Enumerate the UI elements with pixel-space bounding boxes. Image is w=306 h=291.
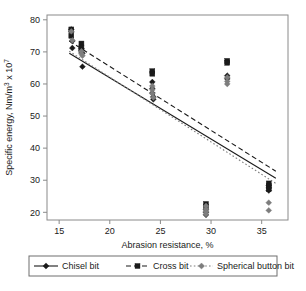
y-tick-label: 20 <box>30 208 40 218</box>
x-tick-label: 20 <box>105 226 115 236</box>
x-tick-label: 25 <box>155 226 165 236</box>
scatter-chart: 1520253035 20304050607080 Abrasion resis… <box>0 0 306 291</box>
y-tick-label: 80 <box>30 15 40 25</box>
legend-label: Spherical button bit <box>217 261 295 271</box>
legend-label: Cross bit <box>153 261 189 271</box>
y-tick-label: 60 <box>30 79 40 89</box>
y-tick-label: 70 <box>30 47 40 57</box>
chart-figure: 1520253035 20304050607080 Abrasion resis… <box>0 0 306 291</box>
legend-marker <box>135 264 140 269</box>
x-tick-label: 35 <box>257 226 267 236</box>
x-tick-label: 30 <box>206 226 216 236</box>
x-axis-title: Abrasion resistance, % <box>121 240 213 250</box>
y-tick-label: 30 <box>30 175 40 185</box>
data-point <box>266 187 271 192</box>
y-tick-label: 40 <box>30 143 40 153</box>
data-point <box>225 60 230 65</box>
legend-label: Chisel bit <box>62 261 100 271</box>
chart-legend[interactable]: Chisel bitCross bitSpherical button bit <box>29 256 295 276</box>
x-tick-label: 15 <box>54 226 64 236</box>
y-tick-label: 50 <box>30 111 40 121</box>
y-axis-title: Specific energy, Nm/m3 x 107 <box>3 59 14 176</box>
data-point <box>150 71 155 76</box>
